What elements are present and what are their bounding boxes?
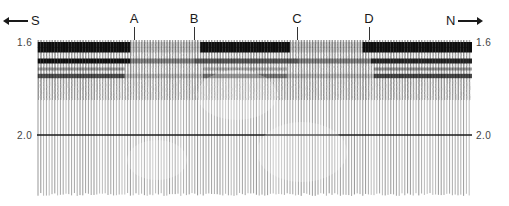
wiggle-traces [37, 40, 472, 198]
marker-b: B [184, 11, 204, 26]
marker-a: A [124, 11, 144, 26]
marker-d: D [359, 11, 379, 26]
arrow-right-icon [458, 20, 478, 22]
direction-south-label: S [31, 13, 40, 29]
marker-tick-a [134, 27, 135, 40]
arrow-left-icon [8, 20, 28, 22]
marker-tick-d [369, 27, 370, 40]
marker-c: C [287, 11, 307, 26]
time-label-left-2-0: 2.0 [17, 130, 32, 141]
time-label-right-2-0: 2.0 [476, 130, 491, 141]
marker-tick-b [194, 27, 195, 40]
direction-north-label: N [446, 13, 455, 29]
marker-tick-c [297, 27, 298, 40]
time-label-right-1-6: 1.6 [476, 37, 491, 48]
direction-north: N [446, 13, 478, 29]
direction-south: S [8, 13, 40, 29]
seismic-figure: S N ABCD 1.6 1.6 2.0 2.0 [0, 0, 509, 206]
seismic-section [37, 40, 472, 198]
time-label-left-1-6: 1.6 [17, 37, 32, 48]
